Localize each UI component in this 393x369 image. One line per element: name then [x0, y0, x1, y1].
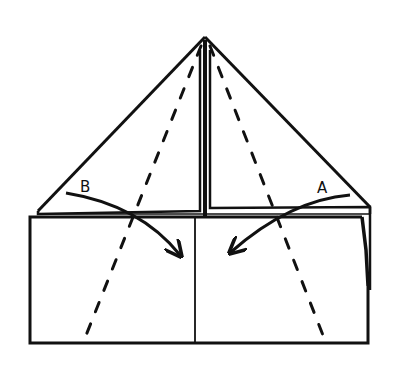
triangle-left-edge — [38, 37, 205, 211]
flap-left-bottom — [38, 50, 200, 214]
dashed-fold-left — [83, 46, 201, 343]
fold-arrows — [66, 193, 350, 255]
label-b: B — [80, 178, 90, 196]
dashed-fold-right — [210, 46, 326, 343]
origami-fold-diagram: B A — [0, 0, 393, 369]
front-panel — [30, 207, 370, 343]
arrow-a — [231, 195, 350, 252]
front-panel-right-tuck — [362, 217, 368, 286]
front-panel-outline — [30, 217, 368, 343]
triangle-right-edge — [205, 37, 370, 207]
flap-right-bottom — [210, 50, 370, 214]
label-a: A — [317, 179, 328, 197]
